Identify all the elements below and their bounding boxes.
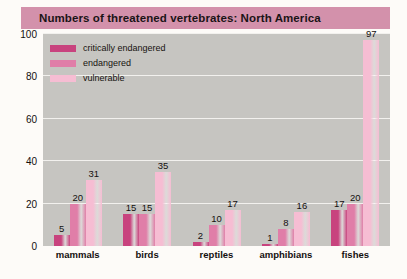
bar-rect: 8 xyxy=(278,229,294,246)
bar-rect: 97 xyxy=(363,40,379,246)
bar-rect: 20 xyxy=(347,204,363,246)
threatened-vertebrates-bar-chart: Numbers of threatened vertebrates: North… xyxy=(0,0,407,279)
bar-fishes-vulnerable[interactable]: 97 xyxy=(363,34,379,246)
y-axis: 020406080100 xyxy=(0,34,43,246)
page-title: Numbers of threatened vertebrates: North… xyxy=(39,12,321,24)
chart-title-banner: Numbers of threatened vertebrates: North… xyxy=(21,7,390,29)
legend-item-label: critically endangered xyxy=(83,43,166,53)
legend-item-label: endangered xyxy=(83,58,131,68)
bar-value-label: 20 xyxy=(72,192,83,203)
bar-value-label: 17 xyxy=(334,198,345,209)
bar-value-label: 16 xyxy=(297,200,308,211)
legend-item-vulnerable[interactable]: vulnerable xyxy=(50,72,166,84)
bar-value-label: 15 xyxy=(142,202,153,213)
y-tick-label: 60 xyxy=(26,113,37,124)
y-tick-label: 80 xyxy=(26,71,37,82)
bar-value-label: 97 xyxy=(366,28,377,39)
bar-fishes-critically-endangered[interactable]: 17 xyxy=(331,34,347,246)
bar-value-label: 17 xyxy=(227,198,238,209)
y-tick-label: 20 xyxy=(26,198,37,209)
bar-rect: 17 xyxy=(331,210,347,246)
bar-rect: 20 xyxy=(70,204,86,246)
bar-rect: 35 xyxy=(155,172,171,246)
bar-rect: 15 xyxy=(123,214,139,246)
bar-amphibians-endangered[interactable]: 8 xyxy=(278,34,294,246)
bar-rect: 15 xyxy=(139,214,155,246)
bar-value-label: 31 xyxy=(88,168,99,179)
bar-rect: 10 xyxy=(209,225,225,246)
bar-group-amphibians: 1816 xyxy=(262,34,310,246)
legend-item-label: vulnerable xyxy=(83,73,125,83)
bar-rect: 31 xyxy=(86,180,102,246)
x-tick-label-mammals: mammals xyxy=(56,249,100,260)
y-tick-label: 100 xyxy=(20,29,37,40)
bar-value-label: 1 xyxy=(267,232,272,243)
bar-reptiles-vulnerable[interactable]: 17 xyxy=(225,34,241,246)
legend-item-critically-endangered[interactable]: critically endangered xyxy=(50,42,166,54)
bar-value-label: 20 xyxy=(350,192,361,203)
legend-item-endangered[interactable]: endangered xyxy=(50,57,166,69)
x-tick-label-amphibians: amphibians xyxy=(259,249,312,260)
bar-rect: 5 xyxy=(54,235,70,246)
bar-fishes-endangered[interactable]: 20 xyxy=(347,34,363,246)
bar-rect: 17 xyxy=(225,210,241,246)
x-axis: mammalsbirdsreptilesamphibiansfishes xyxy=(43,246,390,268)
bar-value-label: 35 xyxy=(158,160,169,171)
legend-swatch-icon xyxy=(50,75,76,82)
bar-group-fishes: 172097 xyxy=(331,34,379,246)
bar-value-label: 15 xyxy=(126,202,137,213)
plot-area: 52031151535210171816172097 critically en… xyxy=(43,34,390,246)
bar-amphibians-critically-endangered[interactable]: 1 xyxy=(262,34,278,246)
chart-legend: critically endangeredendangeredvulnerabl… xyxy=(50,42,166,87)
bar-group-reptiles: 21017 xyxy=(193,34,241,246)
bar-value-label: 10 xyxy=(211,213,222,224)
bar-value-label: 5 xyxy=(59,223,64,234)
bar-value-label: 2 xyxy=(198,230,203,241)
x-tick-label-birds: birds xyxy=(135,249,158,260)
x-tick-label-reptiles: reptiles xyxy=(200,249,234,260)
x-tick-label-fishes: fishes xyxy=(342,249,369,260)
legend-swatch-icon xyxy=(50,60,76,67)
legend-swatch-icon xyxy=(50,45,76,52)
y-tick-label: 40 xyxy=(26,156,37,167)
bar-value-label: 8 xyxy=(283,217,288,228)
bar-reptiles-critically-endangered[interactable]: 2 xyxy=(193,34,209,246)
y-tick-label: 0 xyxy=(31,241,37,252)
bar-rect: 16 xyxy=(294,212,310,246)
bar-amphibians-vulnerable[interactable]: 16 xyxy=(294,34,310,246)
bar-reptiles-endangered[interactable]: 10 xyxy=(209,34,225,246)
